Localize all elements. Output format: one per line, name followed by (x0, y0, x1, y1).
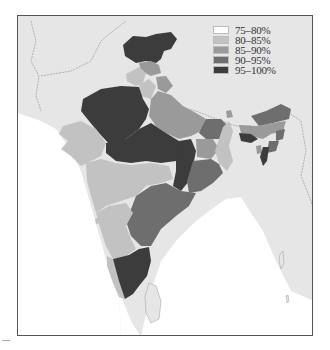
region-jharkhand (196, 139, 219, 159)
legend-swatch (213, 66, 229, 74)
region-uttarakhand (156, 76, 173, 93)
andaman-islands (279, 251, 284, 269)
legend: 75–80% 80–85% 85–90% 90–95% 95–100% (213, 25, 276, 75)
map-frame: 75–80% 80–85% 85–90% 90–95% 95–100% (17, 15, 313, 336)
region-odisha (187, 159, 223, 193)
stray-mark (2, 340, 10, 347)
region-nagaland (276, 129, 285, 141)
region-sikkim (226, 110, 233, 118)
border-east (286, 111, 313, 211)
legend-label: 95–100% (235, 65, 276, 75)
legend-item-95-100: 95–100% (213, 65, 276, 75)
border-west (31, 21, 41, 111)
legend-swatch (213, 26, 229, 34)
border-north (41, 21, 126, 76)
region-tripura (256, 145, 262, 154)
region-jammu-kashmir (123, 32, 177, 63)
legend-swatch (213, 46, 229, 54)
legend-swatch (213, 36, 229, 44)
legend-swatch (213, 56, 229, 64)
